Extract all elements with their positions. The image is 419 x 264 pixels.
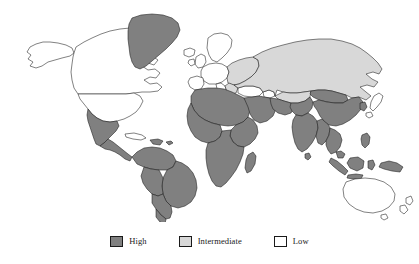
map-legend: High Intermediate Low: [0, 228, 419, 254]
region-papua-new-guinea: [379, 161, 403, 172]
legend-entry-low: Low: [274, 236, 309, 247]
map-canvas: [0, 0, 419, 222]
world-map-svg: [0, 0, 419, 222]
region-colombia-venezuela: [132, 147, 176, 170]
legend-label-intermediate: Intermediate: [198, 237, 242, 246]
region-madagascar: [245, 152, 256, 173]
region-malaysia: [336, 151, 345, 158]
region-australia: [343, 178, 395, 213]
region-ireland: [188, 59, 195, 66]
region-sulawesi: [368, 160, 375, 170]
region-tasmania: [381, 214, 388, 220]
region-sumatra: [329, 158, 348, 175]
legend-swatch-intermediate-icon: [179, 236, 192, 247]
region-iceland: [184, 48, 195, 57]
region-western-europe: [201, 63, 229, 84]
legend-swatch-low-icon: [274, 236, 287, 247]
legend-label-low: Low: [293, 237, 309, 246]
region-japan: [370, 93, 383, 111]
world-map-figure: High Intermediate Low: [0, 0, 419, 264]
region-india: [292, 113, 318, 152]
region-cuba: [125, 133, 146, 140]
region-philippines: [361, 133, 370, 148]
region-sri-lanka: [305, 153, 311, 160]
region-scandinavia: [207, 33, 232, 62]
region-japan-south: [366, 112, 373, 118]
legend-label-high: High: [129, 237, 146, 246]
region-central-america: [100, 139, 132, 161]
region-borneo: [347, 157, 364, 171]
region-alaska: [27, 42, 74, 68]
region-korea: [360, 102, 367, 111]
region-iberia: [188, 76, 204, 90]
region-new-zealand-north: [406, 196, 413, 205]
region-british-isles: [195, 54, 206, 68]
region-new-zealand-south: [400, 205, 408, 214]
region-hispaniola: [150, 139, 163, 145]
region-peru-bolivia: [141, 167, 163, 196]
legend-entry-intermediate: Intermediate: [179, 236, 242, 247]
region-puerto-rico: [166, 141, 173, 145]
legend-swatch-high-icon: [110, 236, 123, 247]
legend-entry-high: High: [110, 236, 146, 247]
